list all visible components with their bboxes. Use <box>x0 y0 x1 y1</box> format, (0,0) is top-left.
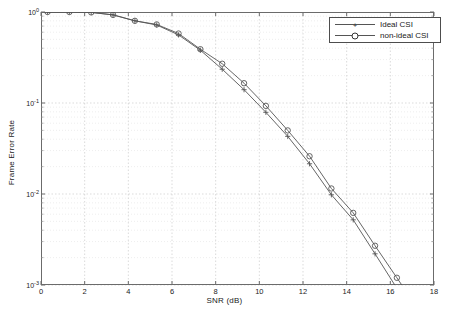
series-line-ideal-csi <box>48 12 409 307</box>
plot-area <box>0 0 449 310</box>
y-tick-label: 10-3 <box>26 280 39 289</box>
x-tick-label: 14 <box>343 287 351 296</box>
x-tick-label: 8 <box>214 287 218 296</box>
series-line-non-ideal-csi <box>48 12 409 295</box>
x-axis-label: SNR (dB) <box>0 296 449 305</box>
y-tick-label: 100 <box>28 7 39 16</box>
x-tick-label: 18 <box>430 287 438 296</box>
circle-marker-icon <box>352 32 359 39</box>
x-tick-label: 6 <box>170 287 174 296</box>
x-tick-label: 16 <box>386 287 394 296</box>
legend-swatch-plus: + <box>332 19 378 30</box>
data-series-group <box>45 9 409 307</box>
legend-item-non-ideal-csi: non-ideal CSI <box>332 30 440 41</box>
x-tick-label: 2 <box>83 287 87 296</box>
x-tick-label: 10 <box>255 287 263 296</box>
x-tick-label: 12 <box>299 287 307 296</box>
y-axis-label: Frame Error Rate <box>7 98 16 208</box>
legend-box: + Ideal CSI non-ideal CSI <box>329 17 441 43</box>
x-tick-label: 4 <box>126 287 130 296</box>
axes-frame <box>42 13 434 285</box>
legend-item-ideal-csi: + Ideal CSI <box>332 19 440 30</box>
legend-swatch-circle <box>332 30 378 41</box>
y-tick-label: 10-2 <box>26 189 39 198</box>
y-tick-label: 10-1 <box>26 98 39 107</box>
figure-canvas: 10010-110-210-3 024681012141618 SNR (dB)… <box>0 0 449 310</box>
legend-label-non-ideal-csi: non-ideal CSI <box>378 31 428 40</box>
legend-label-ideal-csi: Ideal CSI <box>378 20 413 29</box>
x-tick-label: 0 <box>39 287 43 296</box>
plus-marker-icon: + <box>353 21 357 28</box>
